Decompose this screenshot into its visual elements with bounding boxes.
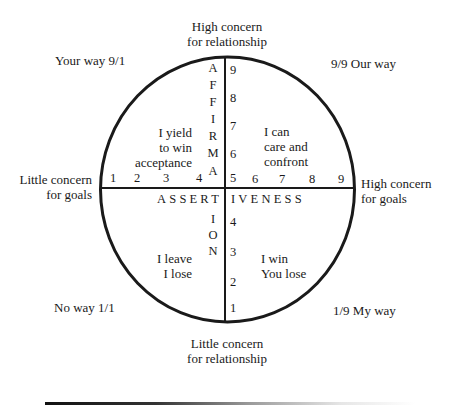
- bottom-divider-rule: [45, 402, 415, 405]
- assertiveness-word-right: IVENESS: [231, 193, 305, 206]
- quadrant-yield-label: I yield to win acceptance: [120, 125, 192, 170]
- corner-my-way: 1/9 My way: [333, 303, 396, 318]
- quadrant-care-confront-label: I can care and confront: [264, 124, 308, 169]
- right-axis-label: High concern for goals: [361, 176, 453, 206]
- corner-your-way: Your way 9/1: [55, 53, 125, 68]
- quadrant-leave-lose-label: I leave I lose: [140, 251, 192, 281]
- corner-no-way: No way 1/1: [54, 300, 115, 315]
- circle-outline: [101, 57, 355, 322]
- assertiveness-word-left: ASSERT: [157, 193, 222, 206]
- left-axis-label: Little concern for goals: [10, 172, 92, 202]
- corner-our-way: 9/9 Our way: [331, 56, 396, 71]
- top-axis-label: High concern for relationship: [169, 19, 285, 49]
- bottom-axis-label: Little concern for relationship: [169, 336, 285, 366]
- quadrant-win-lose-label: I win You lose: [261, 251, 306, 281]
